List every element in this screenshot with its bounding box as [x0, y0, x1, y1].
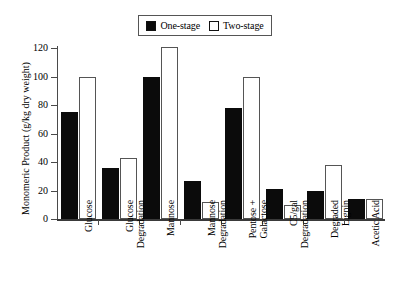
bar-group — [348, 48, 384, 219]
bar-one-stage — [61, 112, 78, 219]
legend-item-two-stage: Two-stage — [209, 21, 264, 31]
bar-two-stage — [243, 77, 260, 220]
bar-group — [225, 48, 261, 219]
y-axis-tick-label: 120 — [33, 42, 48, 53]
y-axis-title: Monomeric Product (g/kg dry weight) — [20, 46, 31, 231]
y-axis-tick-label: 0 — [43, 213, 48, 224]
category-label: C5/gal Degradation — [288, 200, 310, 290]
y-axis-tick-label: 100 — [33, 71, 48, 82]
category-label: Glucose — [83, 200, 94, 290]
category-label: Acetic Acid — [370, 200, 381, 290]
bar-group — [61, 48, 97, 219]
bar-one-stage — [102, 168, 119, 219]
bar-group — [143, 48, 179, 219]
plot-area — [57, 48, 385, 219]
category-label: Glucose Degradation — [124, 200, 146, 290]
x-axis-tick — [98, 220, 99, 225]
category-label: Mannose — [165, 200, 176, 290]
bar-group — [266, 48, 302, 219]
bar-two-stage — [161, 47, 178, 219]
x-axis-tick — [180, 220, 181, 225]
legend-label-two-stage: Two-stage — [223, 21, 264, 31]
bar-two-stage — [79, 77, 96, 220]
bar-one-stage — [143, 77, 160, 220]
legend-item-one-stage: One-stage — [146, 21, 200, 31]
bar-group — [102, 48, 138, 219]
bar-group — [307, 48, 343, 219]
y-axis-tick-label: 80 — [38, 99, 48, 110]
bar-group — [184, 48, 220, 219]
category-label: Pentose + Galactose — [247, 200, 269, 290]
legend-label-one-stage: One-stage — [160, 21, 200, 31]
bar-chart: One-stage Two-stage Monomeric Product (g… — [0, 0, 406, 293]
y-axis-tick-label: 60 — [38, 128, 48, 139]
y-axis-tick-label: 40 — [38, 156, 48, 167]
chart-legend: One-stage Two-stage — [138, 15, 272, 36]
category-label: Degraded Lignin — [329, 200, 351, 290]
y-axis-tick: 0 — [51, 219, 57, 220]
category-label: Mannose Degradation — [206, 200, 228, 290]
hollow-square-icon — [209, 21, 219, 31]
filled-square-icon — [146, 21, 156, 31]
y-axis-tick-label: 20 — [38, 185, 48, 196]
bar-one-stage — [184, 181, 201, 219]
